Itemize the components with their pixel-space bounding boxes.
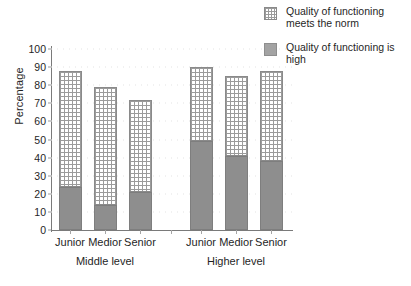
solid-gray-swatch-icon [264,43,277,56]
y-axis-tick-label: 30 [34,170,46,182]
y-grid-line [51,121,292,122]
y-axis-tick-label: 100 [28,43,46,55]
plot-area: 0102030405060708090100 [51,49,292,230]
bar-segment-high [129,192,152,230]
y-grid-line [51,49,292,50]
bar-segment-meets-norm [225,76,248,156]
grid-pattern-swatch-icon [264,7,277,20]
y-axis-tick-label: 50 [34,134,46,146]
bar-higher-level-medior [225,76,248,230]
y-grid-line [51,139,292,140]
y-axis-tick-label: 80 [34,79,46,91]
y-grid-line [51,67,292,68]
y-axis-tick-label: 70 [34,97,46,109]
bar-middle-level-junior [59,71,82,230]
bar-segment-meets-norm [260,71,283,162]
y-axis-tick-mark [48,230,51,231]
y-grid-line [51,157,292,158]
y-axis-title: Percentage [13,41,25,151]
y-axis-tick-label: 40 [34,152,46,164]
x-axis-line [51,230,293,231]
y-grid-line [51,193,292,194]
y-grid-line [51,175,292,176]
chart-legend: Quality of functioning meets the norm Qu… [264,6,409,78]
bar-segment-high [225,156,248,230]
y-axis-tick-label: 60 [34,115,46,127]
x-axis-group-label-1: Higher level [166,255,306,267]
bar-segment-meets-norm [190,67,213,141]
bar-higher-level-junior [190,67,213,230]
x-axis-group-label-0: Middle level [35,255,175,267]
y-grid-line [51,211,292,212]
bar-segment-high [190,141,213,230]
x-axis-tick-mark [271,230,272,234]
x-axis-label-2: Senior [112,236,168,248]
bar-middle-level-senior [129,100,152,230]
legend-item-meets-norm: Quality of functioning meets the norm [264,6,409,29]
y-grid-line [51,85,292,86]
x-axis-tick-mark [140,230,141,234]
stacked-bar-chart: Percentage 0102030405060708090100 Qualit… [0,0,411,286]
y-grid-line [51,103,292,104]
bar-segment-meets-norm [94,87,117,205]
bar-segment-high [94,205,117,230]
y-axis-tick-label: 20 [34,188,46,200]
y-axis-tick-label: 90 [34,61,46,73]
bar-segment-meets-norm [59,71,82,187]
bar-segment-high [59,187,82,230]
bar-segment-high [260,161,283,230]
x-axis-tick-mark [105,230,106,234]
legend-label-high: Quality of functioning is high [286,42,409,65]
bar-middle-level-medior [94,87,117,230]
x-axis-tick-mark [236,230,237,234]
x-axis-tick-mark [201,230,202,234]
legend-label-meets-norm: Quality of functioning meets the norm [286,6,409,29]
bar-higher-level-senior [260,71,283,230]
y-axis-tick-label: 10 [34,206,46,218]
legend-item-high: Quality of functioning is high [264,42,409,65]
x-axis-label-5: Senior [243,236,299,248]
y-axis-tick-label: 0 [40,224,46,236]
bar-segment-meets-norm [129,100,152,192]
x-axis-tick-mark-gap [171,230,172,234]
x-axis-tick-mark [70,230,71,234]
